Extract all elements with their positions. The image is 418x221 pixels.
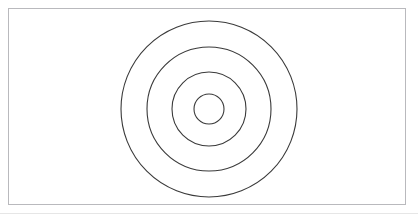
ring-third: [172, 72, 246, 146]
ring-inner: [194, 94, 224, 124]
concentric-circles-figure: [0, 0, 418, 221]
ring-second: [147, 47, 271, 171]
scanned-page: [0, 0, 418, 221]
scan-page-edge: [0, 213, 418, 214]
